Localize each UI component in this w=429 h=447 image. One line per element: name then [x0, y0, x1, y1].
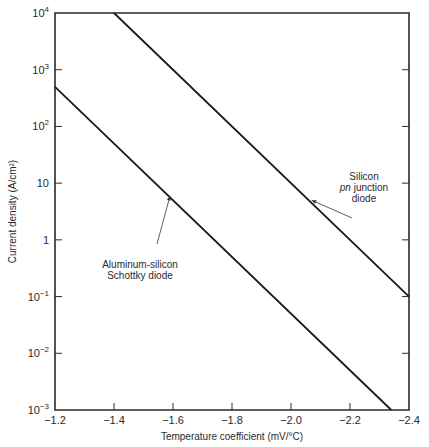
y-tick-label: 10−2 — [28, 345, 50, 359]
y-tick-label: 10−1 — [28, 289, 50, 303]
y-tick-label: 104 — [32, 5, 49, 19]
annotation-text: Aluminum-silicon — [102, 259, 178, 270]
y-tick-label: 1 — [43, 234, 49, 246]
x-tick-label: −2.2 — [339, 414, 361, 426]
axes — [55, 13, 409, 410]
series-line-silicon-pn — [114, 13, 409, 297]
x-tick-label: −1.4 — [103, 414, 125, 426]
annotations: Siliconpn junctiondiodeAluminum-siliconS… — [102, 171, 388, 281]
annotation-text: diode — [352, 193, 377, 204]
series-line-schottky — [55, 87, 391, 410]
y-tick-label: 103 — [32, 62, 49, 76]
annotation-text: Schottky diode — [107, 270, 173, 281]
x-tick-label: −2.4 — [398, 414, 420, 426]
plot-frame — [55, 13, 409, 410]
x-tick-label: −2.0 — [280, 414, 302, 426]
x-tick-label: −1.2 — [44, 414, 66, 426]
chart: −1.2−1.4−1.6−1.8−2.0−2.2−2.410−310−210−1… — [0, 0, 429, 447]
annotation-arrow — [157, 196, 170, 244]
x-tick-label: −1.6 — [162, 414, 184, 426]
x-axis-label: Temperature coefficient (mV/°C) — [161, 431, 303, 442]
y-axis-label: Current density (A/cm²) — [7, 160, 18, 263]
x-tick-label: −1.8 — [221, 414, 243, 426]
y-tick-label: 10 — [37, 177, 49, 189]
series — [55, 13, 409, 410]
ticks: −1.2−1.4−1.6−1.8−2.0−2.2−2.410−310−210−1… — [28, 5, 420, 426]
annotation-text: pn junction — [339, 182, 388, 193]
annotation-text: Silicon — [349, 171, 378, 182]
y-tick-label: 102 — [32, 118, 49, 132]
